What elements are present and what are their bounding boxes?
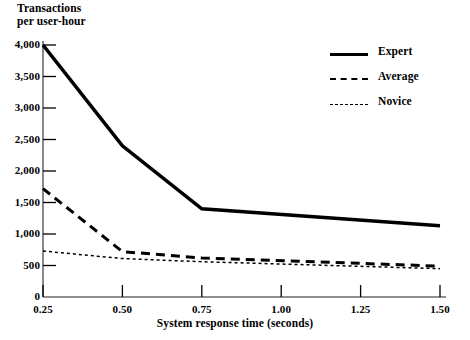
figure-caption bbox=[0, 333, 470, 340]
legend-swatch-solid-icon bbox=[330, 53, 368, 56]
legend-item-novice: Novice bbox=[330, 95, 462, 120]
line-chart: Transactionsper user-hour 4,0003,5003,00… bbox=[0, 0, 470, 340]
series-line-novice bbox=[43, 251, 440, 269]
legend-label-average: Average bbox=[378, 70, 419, 82]
legend-item-average: Average bbox=[330, 70, 462, 95]
legend-label-expert: Expert bbox=[378, 45, 412, 57]
legend-swatch-dashed-icon bbox=[330, 78, 368, 80]
legend-swatch-dotted-icon bbox=[330, 104, 368, 105]
legend-label-novice: Novice bbox=[378, 95, 412, 107]
chart-legend: Expert Average Novice bbox=[330, 45, 462, 120]
x-axis-title: System response time (seconds) bbox=[0, 317, 470, 329]
series-line-average bbox=[43, 189, 440, 266]
legend-item-expert: Expert bbox=[330, 45, 462, 70]
